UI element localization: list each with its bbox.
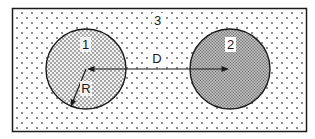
distance-label: D bbox=[152, 51, 161, 66]
diagram-canvas: 1 2 3 D R bbox=[0, 0, 315, 139]
circle-2-label: 2 bbox=[227, 37, 234, 52]
radius-label: R bbox=[81, 81, 90, 96]
region-3-label: 3 bbox=[154, 13, 161, 28]
circle-1-label: 1 bbox=[82, 37, 89, 52]
